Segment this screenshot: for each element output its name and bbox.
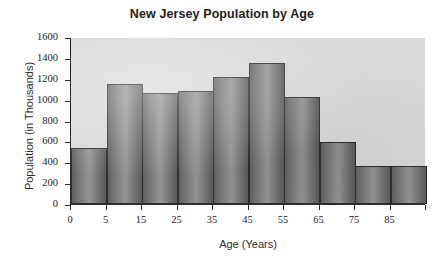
y-tick-label-1400: 1400: [18, 52, 58, 63]
x-tick-label-45: 45: [233, 214, 263, 225]
bar-0: [71, 148, 107, 204]
y-tick-label-1600: 1600: [18, 31, 58, 42]
chart-figure: New Jersey Population by Age Population …: [0, 0, 444, 267]
y-tick-label-1000: 1000: [18, 94, 58, 105]
bar-65: [320, 142, 356, 204]
bar-35: [213, 77, 249, 204]
x-tick-3: [177, 205, 178, 210]
y-tick-label-600: 600: [18, 135, 58, 146]
bars-container: [71, 38, 425, 204]
x-tick-label-25: 25: [162, 214, 192, 225]
x-axis-title: Age (Years): [70, 238, 426, 250]
x-tick-label-65: 65: [304, 214, 334, 225]
y-tick-label-400: 400: [18, 156, 58, 167]
y-tick-200: [65, 184, 70, 185]
x-tick-8: [354, 205, 355, 210]
x-tick-7: [319, 205, 320, 210]
y-tick-1200: [65, 80, 70, 81]
y-tick-label-200: 200: [18, 177, 58, 188]
y-tick-800: [65, 122, 70, 123]
x-tick-label-75: 75: [339, 214, 369, 225]
bar-85: [391, 166, 427, 204]
bar-15: [142, 93, 178, 204]
y-tick-1000: [65, 101, 70, 102]
y-tick-400: [65, 163, 70, 164]
plot-area: [70, 38, 425, 205]
y-tick-1600: [65, 38, 70, 39]
y-tick-1400: [65, 59, 70, 60]
bar-5: [107, 84, 143, 204]
x-tick-2: [141, 205, 142, 210]
x-tick-4: [212, 205, 213, 210]
bar-75: [355, 166, 391, 204]
x-tick-6: [283, 205, 284, 210]
x-tick-label-15: 15: [126, 214, 156, 225]
y-axis: 02004006008001000120014001600: [0, 0, 70, 267]
x-tick-label-5: 5: [91, 214, 121, 225]
x-tick-5: [248, 205, 249, 210]
x-tick-0: [70, 205, 71, 210]
x-tick-label-85: 85: [375, 214, 405, 225]
y-tick-label-1200: 1200: [18, 73, 58, 84]
x-tick-9: [390, 205, 391, 210]
y-tick-label-0: 0: [18, 198, 58, 209]
x-tick-label-0: 0: [55, 214, 85, 225]
x-tick-label-55: 55: [268, 214, 298, 225]
y-tick-600: [65, 142, 70, 143]
bar-25: [178, 91, 214, 204]
x-tick-10: [425, 205, 426, 210]
bar-55: [284, 97, 320, 205]
x-tick-1: [106, 205, 107, 210]
y-tick-label-800: 800: [18, 115, 58, 126]
bar-45: [249, 63, 285, 204]
x-axis: 051525354555657585: [70, 205, 425, 227]
x-tick-label-35: 35: [197, 214, 227, 225]
